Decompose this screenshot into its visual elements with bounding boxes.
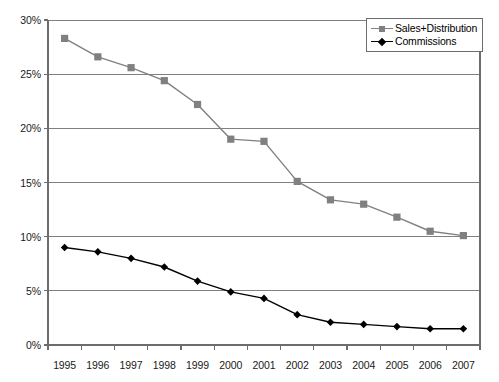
data-point-sales-distribution: [227, 136, 234, 143]
x-axis-tick-label: 1996: [86, 360, 109, 371]
x-axis-tick-label: 2005: [385, 360, 408, 371]
data-point-commissions: [260, 295, 268, 303]
data-point-sales-distribution: [127, 64, 134, 71]
data-point-sales-distribution: [161, 77, 168, 84]
chart-plot-area: [0, 0, 499, 382]
x-axis-tick-label: 2001: [253, 360, 276, 371]
data-point-sales-distribution: [360, 201, 367, 208]
legend-swatch-commissions: [371, 36, 393, 47]
data-point-commissions: [393, 323, 401, 331]
y-axis-tick-label: 0%: [1, 340, 41, 351]
legend-item-commissions: Commissions: [371, 35, 477, 48]
x-axis-tick-label: 2007: [452, 360, 475, 371]
data-point-commissions: [194, 277, 202, 285]
y-axis-tick-label: 25%: [1, 69, 41, 80]
data-point-sales-distribution: [260, 138, 267, 145]
x-axis-tick-label: 1999: [186, 360, 209, 371]
diamond-marker-icon: [378, 38, 386, 46]
x-axis-tick-label: 2004: [352, 360, 375, 371]
data-point-sales-distribution: [460, 232, 467, 239]
data-point-commissions: [327, 318, 335, 326]
data-point-commissions: [94, 248, 102, 256]
series-line-commissions: [65, 248, 464, 329]
y-axis-tick-label: 5%: [1, 286, 41, 297]
data-point-sales-distribution: [393, 214, 400, 221]
legend-label-sales-distribution: Sales+Distribution: [395, 23, 477, 34]
x-axis-tick-label: 1997: [120, 360, 143, 371]
x-axis-tick-label: 2000: [219, 360, 242, 371]
data-point-sales-distribution: [327, 196, 334, 203]
data-point-commissions: [161, 263, 169, 271]
y-axis-tick-label: 15%: [1, 177, 41, 188]
data-point-commissions: [227, 288, 235, 296]
y-axis-tick-label: 10%: [1, 231, 41, 242]
x-axis-tick-label: 2003: [319, 360, 342, 371]
series-line-sales-distribution: [65, 38, 464, 235]
y-axis-tick-label: 20%: [1, 123, 41, 134]
data-point-commissions: [460, 325, 468, 333]
x-axis-tick-label: 2002: [286, 360, 309, 371]
data-point-commissions: [293, 311, 301, 319]
data-point-commissions: [426, 325, 434, 333]
data-point-sales-distribution: [61, 35, 68, 42]
legend-item-sales-distribution: Sales+Distribution: [371, 22, 477, 35]
data-point-sales-distribution: [427, 228, 434, 235]
data-point-sales-distribution: [194, 101, 201, 108]
data-point-commissions: [127, 255, 135, 263]
data-point-commissions: [61, 244, 69, 252]
chart-legend: Sales+Distribution Commissions: [366, 18, 483, 52]
legend-swatch-sales-distribution: [371, 23, 393, 34]
x-axis-tick-label: 1998: [153, 360, 176, 371]
square-marker-icon: [379, 26, 385, 32]
data-point-sales-distribution: [294, 178, 301, 185]
chart-container: 0%5%10%15%20%25%30% 19951996199719981999…: [0, 0, 499, 382]
data-point-commissions: [360, 321, 368, 329]
data-point-sales-distribution: [94, 53, 101, 60]
y-axis-tick-label: 30%: [1, 15, 41, 26]
legend-label-commissions: Commissions: [395, 36, 456, 47]
x-axis-tick-label: 2006: [419, 360, 442, 371]
x-axis-tick-label: 1995: [53, 360, 76, 371]
